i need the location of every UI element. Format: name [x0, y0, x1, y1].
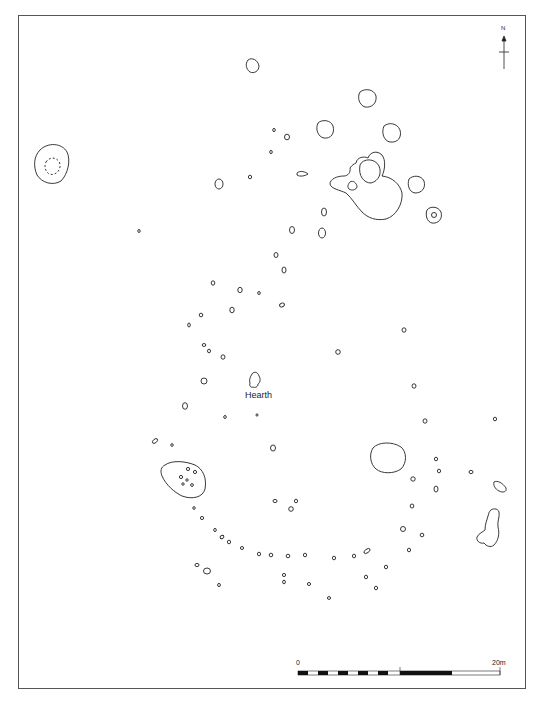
north-arrow-icon	[499, 36, 509, 69]
scale-end-label: 20m	[492, 659, 506, 666]
complex-inner-circle	[360, 160, 381, 183]
complex-feature-se	[477, 509, 499, 547]
posthole-large-e1	[408, 176, 424, 193]
pit-inner-west	[45, 158, 60, 174]
pit-feature-west	[35, 145, 69, 184]
posthole-east-oval	[494, 481, 506, 492]
posthole-large-n1	[246, 59, 259, 73]
pit-feature-sw	[161, 462, 206, 498]
complex-inner-notch	[348, 181, 357, 190]
north-label: N	[501, 25, 505, 31]
site-plan-drawing	[0, 0, 544, 705]
posthole-large-e2	[426, 207, 441, 223]
posthole-large-n4	[383, 124, 401, 142]
scale-bar	[298, 667, 500, 675]
posthole-inner-e2	[432, 213, 437, 218]
complex-feature-ne	[330, 152, 402, 219]
posthole-large-se	[371, 443, 406, 473]
scale-start-label: 0	[296, 659, 300, 666]
posthole-large-n2	[359, 90, 377, 107]
hearth-label: Hearth	[245, 390, 272, 400]
posthole-large-n3	[317, 121, 334, 139]
posthole-group	[138, 128, 497, 599]
hearth-feature	[250, 372, 260, 387]
